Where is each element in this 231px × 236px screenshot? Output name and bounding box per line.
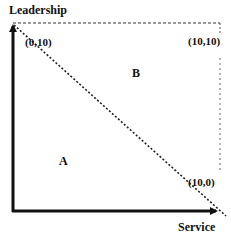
point-label-0-10: (0,10) [25,36,52,48]
region-label-b: B [132,66,140,81]
x-axis-label: Service [178,220,215,235]
region-label-a: A [59,154,68,169]
y-axis-label: Leadership [9,3,67,18]
point-label-10-0: (10,0) [188,176,215,188]
point-label-10-10: (10,10) [188,35,220,47]
